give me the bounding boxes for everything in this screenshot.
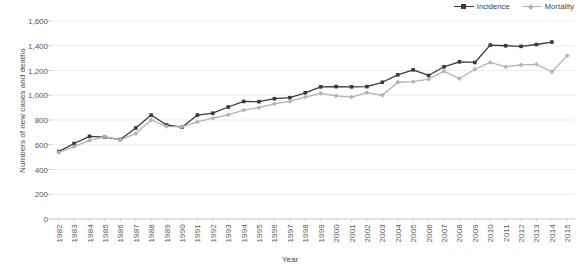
x-axis-tick-label: 2011 [502, 224, 511, 242]
x-axis-tick-label: 1983 [70, 224, 79, 243]
x-axis-tick-label: 1990 [178, 224, 187, 243]
x-axis-tick-label: 2013 [532, 224, 541, 243]
x-axis-tick-label: 1986 [116, 224, 125, 243]
x-axis-tick-label: 2000 [332, 224, 341, 243]
x-axis-tick-label: 2002 [363, 224, 372, 243]
x-axis-tick-label: 1997 [286, 224, 295, 243]
x-axis-tick-label: 1988 [147, 224, 156, 243]
x-axis-tick-label: 1995 [255, 224, 264, 243]
x-axis-tick-label: 1984 [86, 224, 95, 243]
x-axis-tick-label: 2001 [348, 224, 357, 243]
x-axis-tick-label: 1987 [132, 224, 141, 243]
x-axis-tick-label: 1982 [55, 224, 64, 243]
x-axis-tick-label: 2008 [455, 224, 464, 243]
x-axis-tick-label: 2009 [471, 224, 480, 243]
x-axis-tick-label: 1999 [317, 224, 326, 243]
x-axis-tick-label: 1991 [193, 224, 202, 243]
x-axis-tick-label: 1996 [270, 224, 279, 243]
x-axis-tick-label: 1985 [101, 224, 110, 243]
chart-figure: Incidence Mortality Numbers of new cases… [0, 0, 580, 266]
x-axis-tick-label: 1994 [240, 224, 249, 243]
x-axis-ticks: 1982198319841985198619871988198919901991… [0, 0, 580, 266]
x-axis-tick-label: 2015 [563, 224, 572, 243]
x-axis-tick-label: 2005 [409, 224, 418, 243]
x-axis-tick-label: 1993 [224, 224, 233, 243]
x-axis-tick-label: 1992 [209, 224, 218, 243]
x-axis-tick-label: 2003 [378, 224, 387, 243]
x-axis-tick-label: 2012 [517, 224, 526, 243]
x-axis-tick-label: 2014 [548, 224, 557, 243]
x-axis-tick-label: 2010 [486, 224, 495, 243]
x-axis-tick-label: 2006 [425, 224, 434, 243]
x-axis-tick-label: 2004 [394, 224, 403, 243]
x-axis-tick-label: 1998 [301, 224, 310, 243]
x-axis-tick-label: 2007 [440, 224, 449, 243]
x-axis-tick-label: 1989 [163, 224, 172, 243]
